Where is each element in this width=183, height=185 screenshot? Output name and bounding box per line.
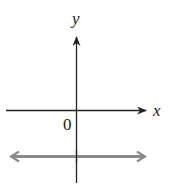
coordinate-plane-diagram: y x 0: [0, 0, 183, 185]
origin-label: 0: [63, 115, 72, 134]
graph-svg: y x 0: [0, 0, 183, 185]
x-axis-label: x: [152, 101, 161, 120]
y-axis-label: y: [70, 9, 80, 28]
